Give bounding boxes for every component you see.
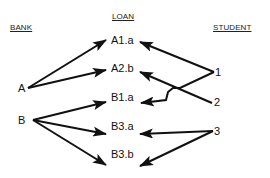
bank-loan-student-diagram: BANK LOAN STUDENT A B A1.a A2.b B1.a B3.… [0,0,270,178]
bank-node-b: B [18,114,25,126]
edge-3-B3a [140,131,213,134]
loan-node-a1a: A1.a [111,34,134,46]
loan-node-b3b: B3.b [111,148,134,160]
loan-node-b1a: B1.a [111,91,134,103]
student-node-3: 3 [214,125,220,137]
student-node-2: 2 [214,96,220,108]
header-loan: LOAN [112,12,134,21]
edge-B-B1a [33,102,106,120]
header-bank: BANK [10,23,32,32]
edge-1-A1a [140,42,214,72]
header-student: STUDENT [213,23,251,32]
student-node-1: 1 [215,66,221,78]
edge-2-A2b [140,72,212,103]
loan-node-a2b: A2.b [111,62,134,74]
edge-A-A1a [28,40,106,88]
edge-3-B3b [140,131,213,166]
loan-node-b3a: B3.a [111,120,134,132]
bank-node-a: A [18,82,25,94]
edge-A-A2b [28,70,106,88]
